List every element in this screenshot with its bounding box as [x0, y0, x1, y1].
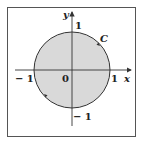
y-tick-1: 1: [75, 20, 82, 31]
x-tick-neg1: − 1: [15, 73, 34, 84]
x-axis-label: x: [123, 73, 131, 84]
curve-label: C: [100, 33, 108, 44]
unit-circle-diagram: y x C 0 1 − 1 1 − 1: [0, 0, 144, 147]
origin-label: 0: [62, 73, 69, 84]
x-tick-1: 1: [111, 73, 118, 84]
y-tick-neg1: − 1: [73, 111, 92, 122]
y-axis-label: y: [62, 9, 70, 20]
